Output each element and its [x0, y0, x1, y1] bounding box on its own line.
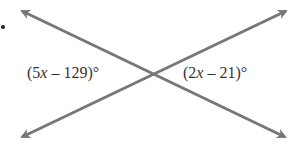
angle-label-right: (2x – 21)°	[183, 65, 247, 81]
intersecting-lines-diagram	[0, 0, 299, 167]
label-left-open: (5	[27, 64, 40, 81]
label-right-rest: – 21)°	[203, 64, 247, 81]
label-left-rest: – 129)°	[47, 64, 99, 81]
label-right-open: (2	[183, 64, 196, 81]
angle-label-left: (5x – 129)°	[27, 65, 99, 81]
